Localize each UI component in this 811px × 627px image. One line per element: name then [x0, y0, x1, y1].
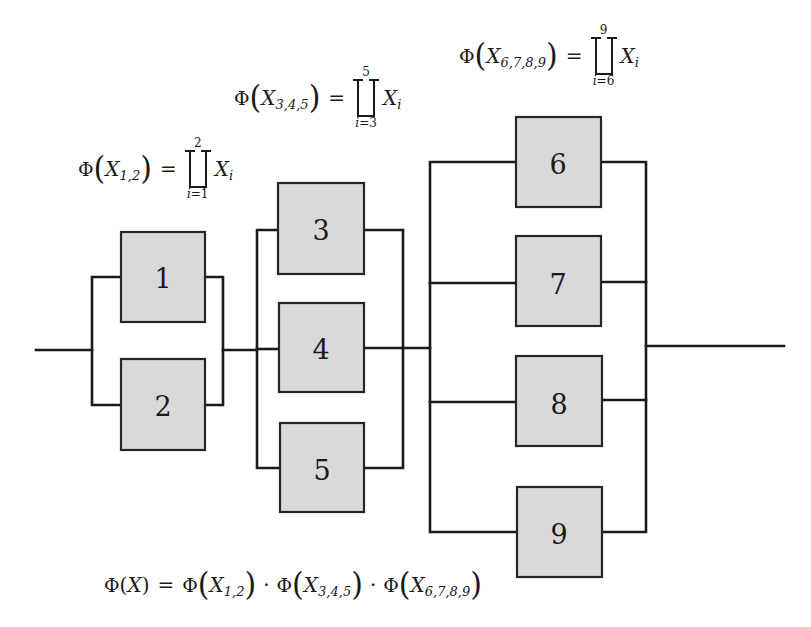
block-2-label: 2: [154, 391, 171, 422]
term-3-variable: X: [411, 573, 425, 597]
term-variable: X: [215, 157, 229, 181]
term-subscript: i: [397, 97, 401, 112]
block-3: 3: [278, 183, 364, 274]
phi-symbol: Φ: [78, 158, 94, 180]
block-3-label: 3: [312, 215, 329, 246]
formula-group-1-2: Φ ( X1,2 ) = 2 i=1 Xi: [78, 137, 233, 201]
variable: X: [261, 86, 275, 110]
coproduct-operator: 2 i=1: [185, 137, 211, 201]
block-7: 7: [516, 236, 601, 326]
phi-symbol: Φ: [104, 574, 120, 596]
block-8-label: 8: [550, 389, 567, 420]
block-6: 6: [516, 117, 601, 207]
upper-limit: 5: [362, 66, 370, 79]
wires-group-6-7-8-9: [430, 162, 784, 532]
term-1-variable: X: [210, 573, 224, 597]
paren-open: (: [94, 153, 106, 185]
paren-close: ): [351, 569, 363, 601]
term-2-phi: Φ: [277, 574, 293, 596]
block-5: 5: [280, 423, 364, 512]
paren-open: (: [475, 40, 487, 72]
equals-sign: =: [160, 157, 177, 181]
multiply-dot: ·: [370, 573, 376, 597]
paren-open: (: [250, 82, 262, 114]
coproduct-operator: 5 i=3: [353, 66, 379, 130]
paren-close: ): [142, 573, 150, 597]
coproduct-icon: [353, 79, 379, 117]
lower-limit: i=1: [187, 188, 209, 201]
equals-sign: =: [566, 44, 583, 68]
block-7-label: 7: [549, 269, 566, 300]
paren-open: (: [198, 569, 210, 601]
variable: X: [105, 157, 119, 181]
reliability-block-diagram: 1 2 3 4 5 6 7 8 9: [0, 0, 811, 627]
term-1-phi: Φ: [182, 574, 198, 596]
formula-group-6-7-8-9: Φ ( X6,7,8,9 ) = 9 i=6 Xi: [459, 24, 639, 88]
block-5-label: 5: [313, 455, 330, 486]
variable: X: [127, 573, 141, 597]
paren-close: ): [244, 569, 256, 601]
term-variable: X: [621, 44, 635, 68]
block-4-label: 4: [312, 334, 329, 365]
variable: X: [486, 44, 500, 68]
lower-limit: i=6: [593, 75, 615, 88]
term-subscript: i: [635, 55, 639, 70]
coproduct-icon: [591, 37, 617, 75]
formula-system-total: Φ ( X ) = Φ ( X1,2 ) · Φ ( X3,4,5 ) · Φ …: [104, 570, 482, 600]
block-9: 9: [517, 487, 602, 577]
coproduct-operator: 9 i=6: [591, 24, 617, 88]
paren-close: ): [470, 569, 482, 601]
paren-close: ): [140, 153, 152, 185]
term-3-phi: Φ: [383, 574, 399, 596]
phi-symbol: Φ: [234, 87, 250, 109]
term-subscript: i: [229, 168, 233, 183]
term-variable: X: [383, 86, 397, 110]
block-1-label: 1: [154, 263, 171, 294]
paren-open: (: [399, 569, 411, 601]
paren-close: ): [546, 40, 558, 72]
phi-symbol: Φ: [459, 45, 475, 67]
paren-open: (: [292, 569, 304, 601]
upper-limit: 9: [600, 24, 608, 37]
block-9-label: 9: [550, 519, 567, 550]
paren-close: ): [309, 82, 321, 114]
term-2-variable: X: [304, 573, 318, 597]
formula-group-3-4-5: Φ ( X3,4,5 ) = 5 i=3 Xi: [234, 66, 402, 130]
upper-limit: 2: [194, 137, 202, 150]
term-2-subscript: 3,4,5: [318, 584, 351, 599]
term-1-subscript: 1,2: [224, 584, 245, 599]
block-6-label: 6: [549, 149, 566, 180]
block-4: 4: [279, 303, 364, 392]
block-8: 8: [516, 356, 602, 446]
lower-limit: i=3: [355, 117, 377, 130]
term-3-subscript: 6,7,8,9: [425, 584, 470, 599]
equals-sign: =: [157, 573, 174, 597]
multiply-dot: ·: [263, 573, 269, 597]
block-1: 1: [121, 232, 205, 322]
coproduct-icon: [185, 150, 211, 188]
equals-sign: =: [328, 86, 345, 110]
subscript: 6,7,8,9: [501, 55, 546, 70]
subscript: 3,4,5: [276, 97, 309, 112]
block-2: 2: [121, 359, 205, 450]
subscript: 1,2: [120, 168, 141, 183]
